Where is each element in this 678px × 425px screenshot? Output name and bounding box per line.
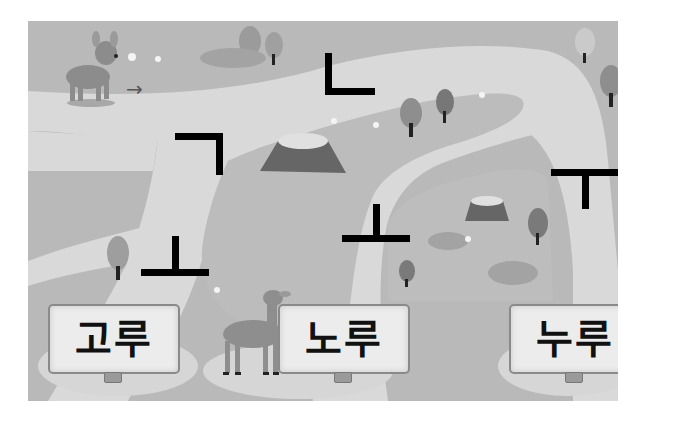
answer-sign-nuru[interactable]: 누루: [509, 304, 618, 374]
jamo-tile-giyeok[interactable]: [175, 133, 223, 175]
jamo-tile-u-vowel[interactable]: [551, 169, 618, 209]
jamo-tile-o-vowel-left[interactable]: [141, 236, 209, 276]
answer-sign-noru[interactable]: 노루: [278, 304, 410, 374]
sign-word-noru: 노루: [305, 319, 383, 359]
answer-sign-goru[interactable]: 고루: [48, 304, 180, 374]
maze-scene: → 고루 노루 누루: [28, 21, 618, 401]
sign-post: [334, 372, 352, 383]
sign-word-goru: 고루: [75, 319, 153, 359]
deer-start-icon: [56, 29, 126, 109]
sign-word-nuru: 누루: [536, 319, 614, 359]
sign-post: [104, 372, 122, 383]
start-arrow-icon: →: [126, 79, 143, 99]
jamo-tile-nieun[interactable]: [325, 53, 375, 95]
jamo-tile-o-vowel-middle[interactable]: [342, 204, 410, 242]
sign-post: [565, 372, 583, 383]
